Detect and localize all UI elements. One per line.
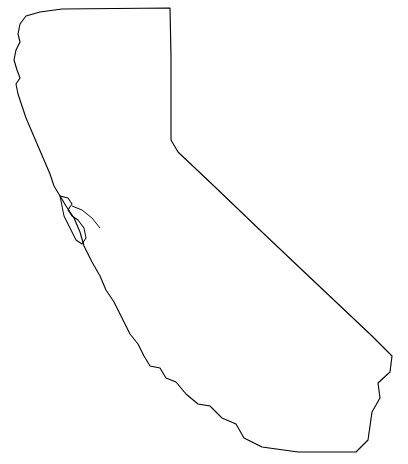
california-distribution-map: California [0, 0, 408, 464]
map-canvas: California [0, 0, 408, 464]
